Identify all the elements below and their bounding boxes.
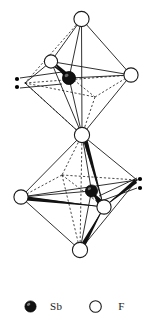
lower-lone-pair-dots	[138, 177, 142, 190]
legend-label-sb: Sb	[50, 301, 62, 312]
sb-marker-icon	[23, 299, 38, 314]
sb-atom-upper	[62, 71, 75, 84]
lower-octahedron	[14, 127, 142, 257]
lower-lone-pair-leader	[99, 178, 137, 201]
f-atom-shared-bridge	[74, 127, 89, 142]
structure-figure: Sb F	[0, 0, 149, 324]
f-atom-left	[14, 190, 28, 204]
legend-label-f: F	[118, 301, 124, 312]
lower-sb-thin-bonds	[21, 135, 92, 250]
f-atom-apex-bottom	[72, 242, 87, 257]
legend-item-sb: Sb	[23, 299, 62, 314]
molecular-structure-diagram	[0, 0, 149, 324]
f-atoms-upper	[44, 11, 138, 82]
f-atom-apex-top	[74, 11, 89, 26]
f-marker-icon	[88, 299, 103, 314]
f-atom-right	[124, 68, 138, 82]
legend-item-f: F	[88, 299, 124, 314]
legend: Sb F	[0, 288, 149, 324]
upper-octahedron	[15, 11, 138, 135]
upper-lone-pair-dots	[15, 77, 19, 89]
f-atom-back-upper-left	[44, 55, 57, 68]
upper-sb-thin-bonds	[69, 19, 131, 135]
f-atom-front-right	[97, 200, 111, 214]
sb-atom-lower	[85, 185, 97, 197]
upper-lone-pair-leader	[20, 72, 62, 88]
